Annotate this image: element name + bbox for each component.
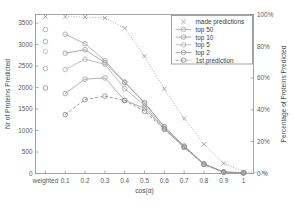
data-point-marker <box>142 54 146 58</box>
y-axis-tick-label: 3000 <box>18 41 33 48</box>
y2-axis-title: Percentage of Proteins Predicted <box>280 45 288 142</box>
weighted-marker <box>43 86 48 91</box>
series-line <box>65 96 243 173</box>
y-axis-title: Nr of Proteins Predicted <box>4 59 11 129</box>
y2-axis-tick-label: 100% <box>257 11 274 18</box>
data-point-marker <box>123 26 127 30</box>
x-axis-tick-label: weighted <box>32 177 59 185</box>
x-axis-tick-label: 0.7 <box>180 177 189 184</box>
series-line <box>65 78 243 173</box>
y-axis-tick-label: 1500 <box>18 105 33 112</box>
weighted-marker <box>43 27 48 32</box>
x-axis-tick-label: 0.5 <box>140 177 149 184</box>
x-axis-tick-label: 0.1 <box>61 177 70 184</box>
series-top-5 <box>43 49 246 175</box>
x-axis-tick-label: 1 <box>242 177 246 184</box>
data-point-marker <box>222 161 226 165</box>
legend: made predictionstop 50top 10top 5top 21s… <box>172 16 253 65</box>
weighted-marker <box>43 49 48 54</box>
legend-label: 1st prediction <box>196 57 234 65</box>
x-axis-tick-label: 0.6 <box>160 177 169 184</box>
y2-axis-tick-label: 40% <box>257 106 270 113</box>
y2-axis-tick-label: 80% <box>257 43 270 50</box>
y-axis-tick-label: 2000 <box>18 84 33 91</box>
y2-axis-tick-label: 60% <box>257 74 270 81</box>
x-axis-tick-label: 0.2 <box>81 177 90 184</box>
x-axis-tick-label: 0.3 <box>100 177 109 184</box>
data-point-marker <box>202 142 206 146</box>
y-axis-tick-label: 1000 <box>18 127 33 134</box>
weighted-marker <box>43 15 47 19</box>
data-point-marker <box>83 15 87 19</box>
weighted-marker <box>43 66 48 71</box>
series-1st-prediction <box>43 86 246 176</box>
series-top-2 <box>43 66 246 175</box>
series-line <box>65 59 243 173</box>
data-point-marker <box>63 15 67 19</box>
weighted-marker <box>43 39 48 44</box>
y-axis-tick-label: 500 <box>22 148 33 155</box>
x-axis-tick-label: 0.9 <box>219 177 228 184</box>
x-axis-tick-label: 0.8 <box>200 177 209 184</box>
data-point-marker <box>182 116 186 120</box>
proteins-predicted-line-chart: 0500100015002000250030003500Nr of Protei… <box>0 0 293 209</box>
x-axis-tick-label: 0.4 <box>120 177 129 184</box>
data-point-marker <box>162 87 166 91</box>
chart-figure: 0500100015002000250030003500Nr of Protei… <box>0 0 293 209</box>
y2-axis-tick-label: 20% <box>257 138 270 145</box>
y-axis-tick-label: 2500 <box>18 62 33 69</box>
series-line <box>65 50 243 173</box>
y-axis-tick-label: 3500 <box>18 19 33 26</box>
x-axis-title: cos(α) <box>135 187 153 195</box>
